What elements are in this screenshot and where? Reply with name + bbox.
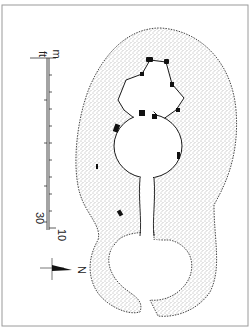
- scale-unit-metric: m: [51, 49, 63, 58]
- scale-unit-imperial: ft: [37, 51, 49, 57]
- north-arrow-icon: N: [40, 258, 88, 280]
- site-plan: ft m 30 10 N: [0, 0, 252, 331]
- north-label: N: [76, 266, 88, 274]
- scale-end-metric: 10: [56, 229, 68, 241]
- scale-end-imperial: 30: [34, 212, 46, 224]
- entrance-passage: [141, 176, 153, 240]
- scale-bar: ft m 30 10: [30, 49, 68, 241]
